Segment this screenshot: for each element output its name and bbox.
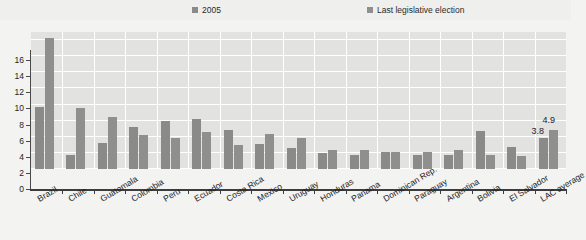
x-tick-mark bbox=[314, 191, 315, 194]
bar-2005[interactable] bbox=[35, 107, 44, 169]
bar-group bbox=[31, 32, 62, 169]
y-tick-label: 0 bbox=[0, 185, 24, 194]
bar-2005[interactable] bbox=[129, 127, 138, 169]
x-tick-mark bbox=[472, 191, 473, 194]
bar-group bbox=[125, 32, 156, 169]
y-tick-label: 8 bbox=[0, 121, 24, 130]
bar-group bbox=[377, 32, 408, 169]
y-tick-label: 16 bbox=[0, 56, 24, 65]
legend-entry-2005: 2005 bbox=[192, 6, 221, 15]
bar-chart: 3.84.9 0246810121416 BrazilChileGuatemal… bbox=[0, 20, 571, 223]
bar-last-legislative-election[interactable] bbox=[360, 150, 369, 169]
bar-group bbox=[188, 32, 219, 169]
bar-last-legislative-election[interactable] bbox=[265, 134, 274, 169]
bar-2005[interactable] bbox=[98, 143, 107, 169]
y-tick-label: 4 bbox=[0, 153, 24, 162]
bar-2005[interactable] bbox=[192, 119, 201, 169]
bar-2005[interactable] bbox=[318, 153, 327, 169]
bar-group bbox=[440, 32, 471, 169]
bar-last-legislative-election[interactable] bbox=[45, 38, 54, 169]
bar-last-legislative-election[interactable] bbox=[139, 135, 148, 169]
bar-last-legislative-election[interactable] bbox=[76, 108, 85, 169]
bar-group: 3.84.9 bbox=[535, 32, 566, 169]
x-tick-mark bbox=[566, 191, 567, 194]
y-tick-label: 14 bbox=[0, 72, 24, 81]
bar-group bbox=[472, 32, 503, 169]
x-tick-mark bbox=[251, 191, 252, 194]
legend-label-last-legislative-election: Last legislative election bbox=[377, 6, 464, 15]
bar-2005[interactable] bbox=[224, 130, 233, 169]
x-tick-mark bbox=[157, 191, 158, 194]
bar-2005[interactable] bbox=[350, 155, 359, 169]
x-tick-mark bbox=[503, 191, 504, 194]
bar-last-legislative-election[interactable] bbox=[486, 155, 495, 170]
x-tick-mark bbox=[188, 191, 189, 194]
bar-last-legislative-election[interactable] bbox=[328, 150, 337, 169]
y-axis-line bbox=[30, 50, 31, 189]
bar-2005[interactable] bbox=[381, 152, 390, 169]
x-tick-mark bbox=[125, 191, 126, 194]
plot-area: 3.84.9 bbox=[31, 32, 566, 169]
y-tick-label: 2 bbox=[0, 169, 24, 178]
bar-last-legislative-election[interactable] bbox=[549, 130, 558, 169]
legend-swatch-last-legislative-election bbox=[367, 7, 373, 13]
bar-group bbox=[251, 32, 282, 169]
bar-group bbox=[62, 32, 93, 169]
bar-2005[interactable] bbox=[476, 131, 485, 169]
x-tick-label-brazil: Brazil bbox=[36, 185, 59, 203]
bar-group bbox=[346, 32, 377, 169]
bar-group bbox=[314, 32, 345, 169]
bar-2005[interactable] bbox=[507, 147, 516, 169]
y-tick-label: 12 bbox=[0, 88, 24, 97]
x-tick-label-bolivia: Bolivia bbox=[476, 183, 502, 203]
x-axis-labels: BrazilChileGuatemalaColombiaPeruEcuadorC… bbox=[0, 196, 571, 240]
x-tick-mark bbox=[440, 191, 441, 194]
bar-last-legislative-election[interactable] bbox=[171, 138, 180, 169]
bar-value-label: 3.8 bbox=[532, 127, 545, 136]
x-tick-mark bbox=[62, 191, 63, 194]
bar-last-legislative-election[interactable] bbox=[297, 138, 306, 169]
bar-group bbox=[503, 32, 534, 169]
x-tick-mark bbox=[283, 191, 284, 194]
legend-entry-last-legislative-election: Last legislative election bbox=[367, 6, 464, 15]
x-tick-mark bbox=[346, 191, 347, 194]
x-tick-mark bbox=[94, 191, 95, 194]
bar-group bbox=[94, 32, 125, 169]
bar-group bbox=[409, 32, 440, 169]
bar-2005[interactable] bbox=[539, 138, 548, 169]
bar-2005[interactable] bbox=[66, 155, 75, 169]
legend-label-2005: 2005 bbox=[202, 6, 221, 15]
bar-last-legislative-election[interactable] bbox=[108, 117, 117, 169]
bar-last-legislative-election[interactable] bbox=[202, 132, 211, 169]
bar-value-label: 4.9 bbox=[543, 116, 556, 125]
x-tick-mark bbox=[535, 191, 536, 194]
bar-group bbox=[283, 32, 314, 169]
y-axis-labels: 0246810121416 bbox=[0, 20, 24, 223]
bar-2005[interactable] bbox=[413, 155, 422, 169]
bar-last-legislative-election[interactable] bbox=[454, 150, 463, 169]
y-tick-label: 10 bbox=[0, 104, 24, 113]
chart-legend: 2005 Last legislative election bbox=[0, 0, 571, 20]
y-tick-label: 6 bbox=[0, 137, 24, 146]
bar-last-legislative-election[interactable] bbox=[517, 156, 526, 169]
bar-group bbox=[220, 32, 251, 169]
bar-2005[interactable] bbox=[161, 121, 170, 169]
bar-group bbox=[157, 32, 188, 169]
bar-last-legislative-election[interactable] bbox=[234, 145, 243, 169]
legend-swatch-2005 bbox=[192, 7, 198, 13]
x-tick-mark bbox=[409, 191, 410, 194]
bar-last-legislative-election[interactable] bbox=[391, 152, 400, 169]
x-tick-mark bbox=[377, 191, 378, 194]
bar-2005[interactable] bbox=[287, 148, 296, 169]
x-tick-mark bbox=[220, 191, 221, 194]
bar-2005[interactable] bbox=[255, 144, 264, 169]
bar-2005[interactable] bbox=[444, 155, 453, 170]
